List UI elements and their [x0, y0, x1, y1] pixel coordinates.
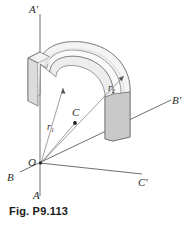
label-radius-r2: r2 [108, 83, 115, 94]
label-axis-c-prime: C' [138, 177, 148, 188]
radius-r2-subscript: 2 [112, 87, 115, 94]
label-centroid-c: C [72, 107, 79, 118]
figure-caption: Fig. P9.113 [9, 205, 68, 217]
centroid-point [73, 121, 77, 125]
arch-left-front-face [28, 58, 38, 106]
label-axis-a: A [33, 190, 40, 201]
axes-group [20, 14, 171, 196]
radius-r1-subscript: 1 [51, 126, 54, 133]
label-axis-b: B [7, 172, 14, 183]
label-axis-b-prime: B' [172, 95, 181, 106]
origin-point [39, 162, 42, 165]
diagram-svg [0, 0, 187, 226]
axis-line-cc [40, 163, 142, 174]
arch-end-face-right [105, 92, 130, 141]
label-axis-a-prime: A' [29, 4, 38, 15]
figure-container: A' A B' B C' O C r1 r2 Fig. P9.113 [0, 0, 187, 226]
label-origin-o: O [28, 157, 36, 168]
label-radius-r1: r1 [47, 122, 54, 133]
arch-inner-surface [50, 56, 113, 141]
